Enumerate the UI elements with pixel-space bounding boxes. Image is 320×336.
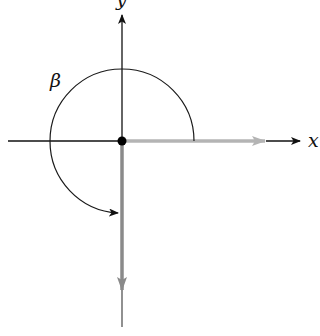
y-axis-label: y (115, 0, 127, 10)
x-axis-label: x (308, 129, 319, 151)
angle-diagram: x y β (0, 0, 320, 336)
angle-label-beta: β (49, 69, 61, 91)
origin-point (118, 137, 127, 146)
